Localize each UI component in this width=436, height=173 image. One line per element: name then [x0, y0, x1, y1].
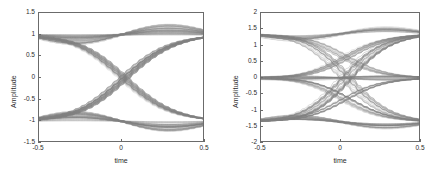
y-tick-mark [38, 99, 41, 100]
x-axis-label-right: time [260, 157, 420, 164]
y-tick-mark [260, 93, 263, 94]
y-tick-label: -1 [16, 116, 35, 123]
y-tick-mark [38, 120, 41, 121]
y-tick-mark [260, 12, 263, 13]
y-tick-label: 0 [16, 73, 35, 80]
y-tick-mark [260, 28, 263, 29]
y-tick-label: 1.5 [16, 8, 35, 15]
y-tick-mark [260, 142, 263, 143]
x-tick-mark [204, 139, 205, 142]
y-tick-label: 1.5 [238, 24, 257, 31]
y-tick-label: 0.5 [16, 51, 35, 58]
y-tick-mark [260, 45, 263, 46]
x-tick-label: -0.5 [26, 144, 50, 151]
x-tick-mark [340, 139, 341, 142]
plot-area-left [38, 12, 204, 142]
x-tick-label: -0.5 [248, 144, 272, 151]
y-tick-label: 0 [238, 73, 257, 80]
y-tick-mark [260, 77, 263, 78]
y-tick-mark [38, 34, 41, 35]
y-tick-mark [38, 55, 41, 56]
x-axis-label-left: time [38, 157, 204, 164]
y-axis-label-left: Amplitude [10, 75, 17, 108]
y-tick-label: 1 [16, 30, 35, 37]
y-tick-label: -1.5 [238, 122, 257, 129]
chart-panel-right: Amplitude 21.510.50-0.5-1-1.5-2 -0.500.5… [218, 0, 436, 173]
y-tick-label: -0.5 [238, 89, 257, 96]
y-tick-mark [38, 12, 41, 13]
eye-trace [39, 37, 204, 118]
plot-area-right [260, 12, 420, 142]
y-tick-label: -1 [238, 106, 257, 113]
x-tick-mark [420, 139, 421, 142]
y-tick-label: -0.5 [16, 95, 35, 102]
x-tick-label: 0 [328, 144, 352, 151]
y-tick-label: 0.5 [238, 57, 257, 64]
y-tick-mark [260, 126, 263, 127]
x-tick-mark [260, 139, 261, 142]
y-tick-label: 2 [238, 8, 257, 15]
y-tick-mark [260, 61, 263, 62]
x-tick-label: 0.5 [408, 144, 432, 151]
eye-traces-left [39, 13, 204, 142]
eye-diagram-figure: Amplitude 1.510.50-0.5-1-1.5 -0.500.5 ti… [0, 0, 436, 173]
x-tick-mark [38, 139, 39, 142]
x-tick-label: 0.5 [192, 144, 216, 151]
eye-traces-right [261, 13, 420, 142]
x-tick-label: 0 [109, 144, 133, 151]
y-tick-mark [260, 110, 263, 111]
y-tick-mark [38, 142, 41, 143]
y-tick-mark [38, 77, 41, 78]
chart-panel-left: Amplitude 1.510.50-0.5-1-1.5 -0.500.5 ti… [0, 0, 218, 173]
y-tick-label: 1 [238, 41, 257, 48]
x-tick-mark [121, 139, 122, 142]
